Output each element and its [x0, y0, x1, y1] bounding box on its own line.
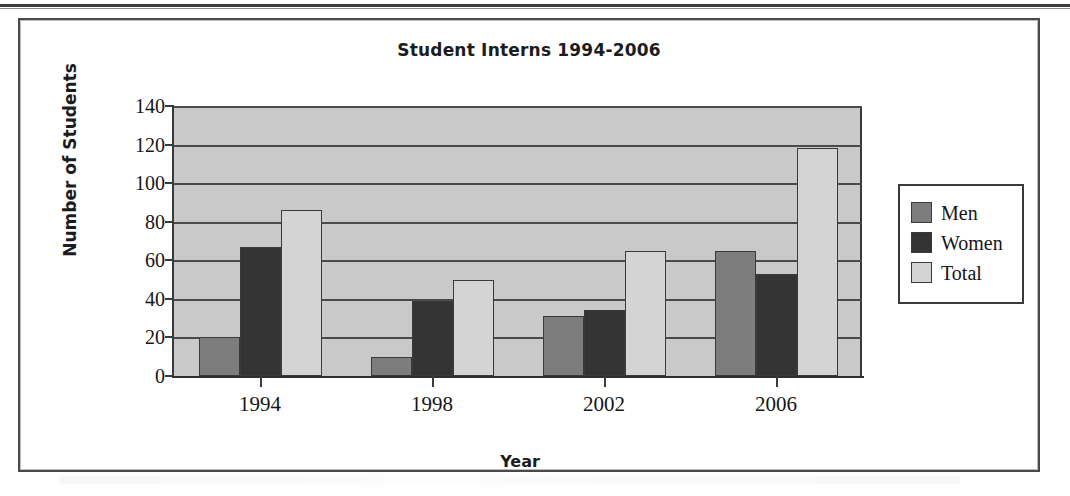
x-axis-tick-label-2006: 2006 — [711, 392, 841, 417]
legend-swatch-women-icon — [911, 232, 932, 253]
x-axis-tick-mark — [604, 376, 606, 387]
bar-men-1998 — [371, 357, 412, 376]
y-axis-tick-mark — [165, 182, 174, 184]
y-axis-tick-label: 0 — [103, 366, 165, 386]
y-axis-tick-label: 40 — [103, 289, 165, 309]
legend-item-men: Men — [911, 202, 1012, 223]
bar-women-1998 — [412, 301, 453, 376]
legend-swatch-total-icon — [911, 262, 932, 283]
legend-label-women: Women — [941, 233, 1003, 253]
y-axis-tick-label: 20 — [103, 327, 165, 347]
y-axis-tick-mark — [165, 105, 174, 107]
y-axis-tick-mark — [165, 221, 174, 223]
y-axis-tick-label: 120 — [103, 135, 165, 155]
y-axis-tick-mark — [165, 144, 174, 146]
y-axis-tick-mark — [165, 259, 174, 261]
gridline — [174, 183, 862, 185]
figure-frame: Student Interns 1994-2006 Number of Stud… — [18, 18, 1040, 472]
legend-item-total: Total — [911, 262, 1012, 283]
bar-men-1994 — [199, 337, 240, 376]
x-axis-title: Year — [170, 452, 870, 471]
gridline — [174, 106, 862, 108]
bar-total-1994 — [281, 210, 322, 376]
chart-legend: Men Women Total — [898, 184, 1024, 304]
y-axis-tick-mark — [165, 375, 174, 377]
bar-total-2006 — [797, 148, 838, 376]
y-axis-tick-mark — [165, 298, 174, 300]
page-top-rule-thin — [0, 8, 1070, 9]
bar-men-2002 — [543, 316, 584, 376]
plot-area: 0204060801001201401994199820022006 — [172, 106, 862, 376]
x-axis-tick-mark — [776, 376, 778, 387]
page-top-rule — [0, 4, 1070, 7]
legend-item-women: Women — [911, 232, 1012, 253]
y-axis-title-wrapper: Number of Students — [42, 110, 68, 390]
chart-title: Student Interns 1994-2006 — [20, 40, 1038, 60]
bar-women-2002 — [584, 310, 625, 376]
x-axis-tick-label-2002: 2002 — [539, 392, 669, 417]
x-axis-tick-label-1998: 1998 — [367, 392, 497, 417]
y-axis-tick-label: 100 — [103, 173, 165, 193]
y-axis-tick-label: 60 — [103, 250, 165, 270]
gridline — [174, 145, 862, 147]
y-axis-tick-label: 80 — [103, 212, 165, 232]
legend-label-men: Men — [941, 203, 978, 223]
y-axis-tick-label: 140 — [103, 96, 165, 116]
legend-swatch-men-icon — [911, 202, 932, 223]
x-axis-line — [172, 376, 864, 378]
x-axis-tick-label-1994: 1994 — [195, 392, 325, 417]
bar-men-2006 — [715, 251, 756, 376]
bar-women-1994 — [240, 247, 281, 376]
bar-women-2006 — [756, 274, 797, 376]
gridline — [174, 222, 862, 224]
bar-total-2002 — [625, 251, 666, 376]
bar-total-1998 — [453, 280, 494, 376]
x-axis-tick-mark — [432, 376, 434, 387]
y-axis-title: Number of Students — [60, 60, 80, 260]
scan-artifact — [60, 476, 960, 484]
legend-label-total: Total — [941, 263, 982, 283]
y-axis-tick-mark — [165, 336, 174, 338]
x-axis-tick-mark — [260, 376, 262, 387]
